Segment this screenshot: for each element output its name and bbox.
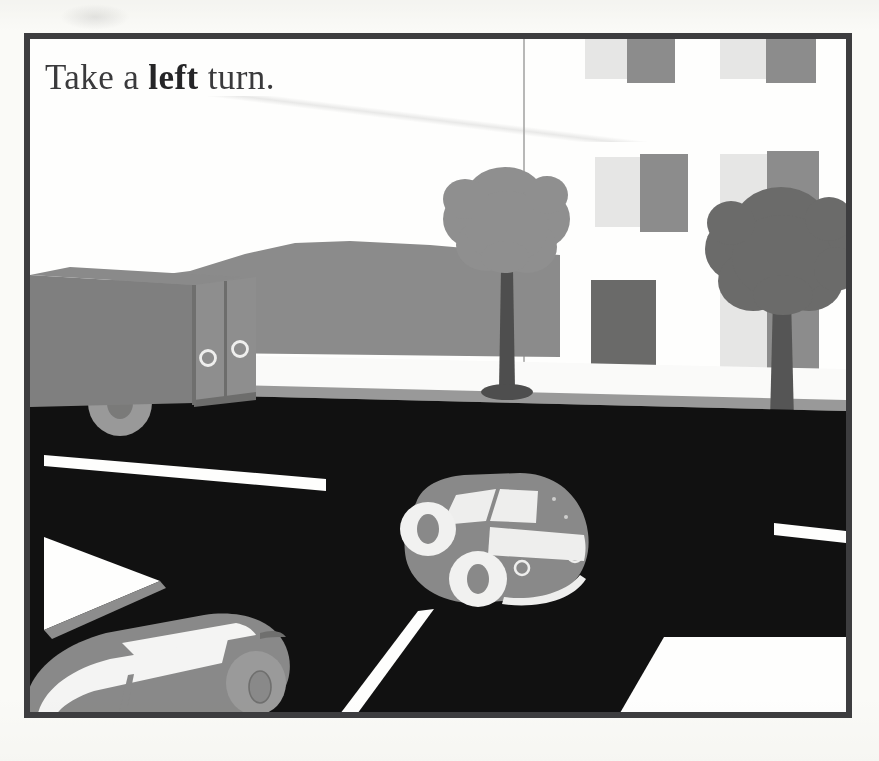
street-scene-illustration	[30, 39, 846, 712]
lane-line-upper-right	[774, 523, 846, 543]
caption-emphasis: left	[148, 58, 198, 97]
lane-line-upper-left	[44, 455, 326, 491]
car-center	[378, 451, 608, 631]
caption-text-after: turn.	[199, 58, 275, 97]
caption-text-before: Take a	[45, 58, 148, 97]
crosswalk-block-right	[598, 637, 846, 712]
page-caption: Take a left turn.	[45, 58, 275, 98]
box-truck	[30, 255, 280, 445]
car-lower-left	[30, 595, 314, 712]
page-smudge	[60, 4, 130, 30]
illustration-frame	[24, 33, 852, 718]
page-canvas: Take a left turn.	[0, 0, 879, 761]
